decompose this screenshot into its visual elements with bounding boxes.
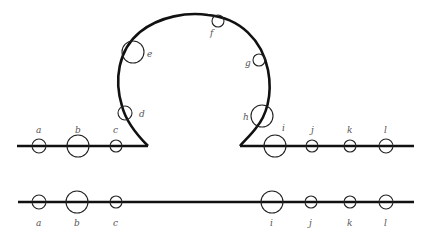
top-label-c: c — [113, 125, 118, 135]
top-label-g: g — [245, 58, 251, 68]
top-label-j: j — [309, 125, 314, 135]
bottom-label-a: a — [36, 218, 41, 228]
top-label-h: h — [243, 112, 249, 122]
top-label-f: f — [209, 28, 215, 38]
bottom-label-i: i — [270, 218, 273, 228]
top-label-e: e — [147, 49, 152, 59]
bottom-label-j: j — [307, 218, 312, 228]
bottom-strand-markers: abcijkl — [32, 191, 393, 228]
top-marker-g — [253, 54, 265, 66]
top-strand-markers: abcdefghijkl — [32, 15, 393, 157]
bottom-label-b: b — [74, 218, 80, 228]
top-label-k: k — [347, 125, 352, 135]
top-label-d: d — [139, 109, 145, 119]
top-strand-loop — [118, 14, 269, 146]
top-label-l: l — [384, 125, 387, 135]
top-label-i: i — [282, 123, 285, 133]
bottom-strand: abcijkl — [18, 191, 414, 228]
bottom-label-k: k — [347, 218, 352, 228]
top-label-a: a — [36, 125, 41, 135]
top-strand: abcdefghijkl — [17, 14, 414, 157]
loop-diagram: abcdefghijkl abcijkl — [0, 0, 432, 239]
top-label-b: b — [75, 125, 81, 135]
top-marker-h — [251, 105, 273, 127]
bottom-label-c: c — [113, 218, 118, 228]
bottom-label-l: l — [384, 218, 387, 228]
